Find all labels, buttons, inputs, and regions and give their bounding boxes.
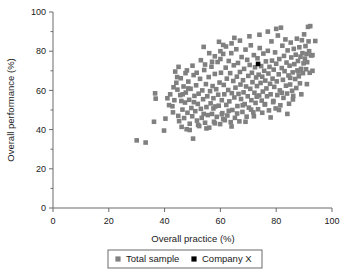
data-point-total-sample bbox=[278, 103, 283, 108]
data-point-total-sample bbox=[190, 114, 195, 119]
data-point-total-sample bbox=[168, 92, 173, 97]
data-point-total-sample bbox=[288, 82, 293, 87]
data-point-total-sample bbox=[245, 94, 250, 99]
data-point-total-sample bbox=[285, 91, 290, 96]
data-point-total-sample bbox=[274, 27, 279, 32]
data-point-total-sample bbox=[226, 108, 231, 113]
data-point-total-sample bbox=[243, 119, 248, 124]
data-point-total-sample bbox=[214, 87, 219, 92]
data-point-total-sample bbox=[209, 64, 214, 69]
data-point-total-sample bbox=[300, 51, 305, 56]
data-point-total-sample bbox=[194, 83, 199, 88]
data-point-total-sample bbox=[239, 97, 244, 102]
data-point-total-sample bbox=[185, 68, 190, 73]
data-point-total-sample bbox=[279, 90, 284, 95]
data-point-total-sample bbox=[153, 91, 158, 96]
data-point-total-sample bbox=[198, 77, 203, 82]
data-point-total-sample bbox=[267, 65, 272, 70]
x-axis-tick-label: 20 bbox=[104, 216, 114, 226]
x-axis-tick-label: 40 bbox=[160, 216, 170, 226]
data-point-total-sample bbox=[303, 44, 308, 49]
data-point-total-sample bbox=[196, 123, 201, 128]
data-point-total-sample bbox=[305, 82, 310, 87]
data-point-total-sample bbox=[176, 114, 181, 119]
x-axis-title: Overall practice (%) bbox=[151, 233, 234, 244]
data-point-total-sample bbox=[260, 74, 265, 79]
data-point-total-sample bbox=[253, 101, 258, 106]
data-point-total-sample bbox=[187, 121, 192, 126]
data-point-total-sample bbox=[194, 70, 199, 75]
data-point-total-sample bbox=[266, 71, 271, 76]
data-point-total-sample bbox=[218, 122, 223, 127]
data-point-total-sample bbox=[171, 85, 176, 90]
data-point-total-sample bbox=[201, 112, 206, 117]
data-point-total-sample bbox=[206, 75, 211, 80]
data-point-total-sample bbox=[219, 98, 224, 103]
data-point-total-sample bbox=[187, 98, 192, 103]
data-point-total-sample bbox=[274, 79, 279, 84]
data-point-total-sample bbox=[191, 136, 196, 141]
data-point-total-sample bbox=[163, 116, 168, 121]
data-point-total-sample bbox=[180, 92, 185, 97]
data-point-total-sample bbox=[245, 58, 250, 63]
data-point-total-sample bbox=[180, 107, 185, 112]
data-point-total-sample bbox=[261, 51, 266, 56]
data-point-total-sample bbox=[225, 113, 230, 118]
data-point-total-sample bbox=[239, 55, 244, 60]
y-axis-tick-label: 80 bbox=[36, 46, 46, 56]
legend-swatch-total-sample bbox=[115, 256, 120, 261]
data-point-total-sample bbox=[297, 74, 302, 79]
data-point-total-sample bbox=[264, 59, 269, 64]
data-point-total-sample bbox=[306, 39, 311, 44]
data-point-total-sample bbox=[264, 86, 269, 91]
data-point-total-sample bbox=[275, 93, 280, 98]
data-point-total-sample bbox=[199, 107, 204, 112]
data-point-total-sample bbox=[257, 46, 262, 51]
x-axis-tick-label: 0 bbox=[50, 216, 55, 226]
data-point-total-sample bbox=[213, 72, 218, 77]
data-point-total-sample bbox=[298, 81, 303, 86]
data-point-total-sample bbox=[266, 29, 271, 34]
data-point-total-sample bbox=[300, 38, 305, 43]
chart-canvas: 020406080100 020406080100 Overall perfor… bbox=[0, 0, 346, 276]
data-point-total-sample bbox=[308, 24, 313, 29]
data-point-total-sample bbox=[206, 113, 211, 118]
data-point-total-sample bbox=[210, 59, 215, 64]
data-point-total-sample bbox=[205, 94, 210, 99]
data-point-total-sample bbox=[170, 104, 175, 109]
data-point-total-sample bbox=[249, 43, 254, 48]
data-point-total-sample bbox=[235, 104, 240, 109]
data-point-total-sample bbox=[228, 120, 233, 125]
data-point-total-sample bbox=[232, 36, 237, 41]
data-point-total-sample bbox=[249, 107, 254, 112]
x-axis-tick-label: 100 bbox=[324, 216, 339, 226]
data-point-total-sample bbox=[219, 112, 224, 117]
data-point-total-sample bbox=[232, 95, 237, 100]
data-point-total-sample bbox=[310, 69, 315, 74]
data-point-total-sample bbox=[252, 90, 257, 95]
data-point-total-sample bbox=[229, 41, 234, 46]
series-company-x bbox=[256, 62, 261, 67]
data-point-total-sample bbox=[238, 70, 243, 75]
data-point-total-sample bbox=[201, 97, 206, 102]
data-point-total-sample bbox=[187, 128, 192, 133]
data-point-total-sample bbox=[296, 69, 301, 74]
data-point-total-sample bbox=[289, 55, 294, 60]
data-point-total-sample bbox=[290, 88, 295, 93]
data-point-total-sample bbox=[219, 70, 224, 75]
data-point-total-sample bbox=[237, 119, 242, 124]
data-point-total-sample bbox=[288, 76, 293, 81]
data-point-total-sample bbox=[213, 121, 218, 126]
data-point-total-sample bbox=[301, 71, 306, 76]
data-point-total-sample bbox=[299, 92, 304, 97]
data-point-total-sample bbox=[199, 116, 204, 121]
data-point-total-sample bbox=[241, 90, 246, 95]
x-axis-tick-label: 80 bbox=[271, 216, 281, 226]
scatter-chart-figure: 020406080100 020406080100 Overall perfor… bbox=[0, 0, 346, 276]
chart-legend: Total sampleCompany X bbox=[108, 250, 262, 268]
data-point-total-sample bbox=[270, 76, 275, 81]
data-point-total-sample bbox=[211, 96, 216, 101]
data-point-total-sample bbox=[236, 61, 241, 66]
data-point-total-sample bbox=[201, 45, 206, 50]
data-point-total-sample bbox=[218, 57, 223, 62]
